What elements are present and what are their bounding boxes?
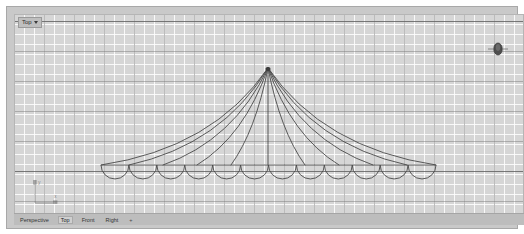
tent-ribs bbox=[101, 68, 436, 165]
tent-scallop-3 bbox=[185, 165, 213, 179]
tent-rib-0 bbox=[101, 68, 268, 165]
viewport-tab-bar[interactable]: PerspectiveTopFrontRight+ bbox=[14, 213, 524, 225]
tent-wireframe-geometry bbox=[15, 15, 524, 220]
tent-scallop-9 bbox=[352, 165, 380, 179]
tent-rib-10 bbox=[268, 68, 436, 165]
tent-scallops bbox=[101, 165, 436, 179]
tent-scallop-0 bbox=[101, 165, 129, 179]
viewport-tab-right[interactable]: Right bbox=[103, 216, 120, 224]
viewport-title[interactable]: Top bbox=[18, 17, 42, 28]
viewport-title-label: Top bbox=[22, 19, 32, 26]
tent-rib-2 bbox=[163, 68, 268, 165]
tent-scallop-6 bbox=[269, 165, 297, 179]
tent-scallop-11 bbox=[408, 165, 436, 179]
app-frame: Top y bbox=[6, 6, 518, 229]
application-window: Top y bbox=[0, 0, 524, 234]
tent-scallop-5 bbox=[241, 165, 269, 179]
viewport-top[interactable]: Top y bbox=[14, 14, 524, 220]
view-navigator-icon[interactable] bbox=[485, 37, 511, 67]
tent-apex-marker bbox=[265, 67, 270, 71]
tent-scallop-10 bbox=[380, 165, 408, 179]
viewport-tab-front[interactable]: Front bbox=[80, 216, 97, 224]
tent-scallop-7 bbox=[296, 165, 324, 179]
tent-scallop-8 bbox=[324, 165, 352, 179]
viewport-tab-perspective[interactable]: Perspective bbox=[18, 216, 51, 224]
tent-apex-point bbox=[265, 67, 270, 71]
viewport-tab-top[interactable]: Top bbox=[58, 216, 73, 224]
tent-rib-9 bbox=[268, 68, 407, 165]
chevron-down-icon[interactable] bbox=[34, 21, 38, 24]
tent-scallop-1 bbox=[129, 165, 157, 179]
axis-label-y: y bbox=[38, 179, 41, 185]
tent-rib-8 bbox=[268, 68, 373, 165]
tent-scallop-4 bbox=[213, 165, 241, 179]
viewport-tab-add[interactable]: + bbox=[127, 216, 134, 224]
axis-label-x: x bbox=[54, 193, 57, 199]
tent-scallop-2 bbox=[157, 165, 185, 179]
tent-rib-1 bbox=[129, 68, 268, 165]
axis-gizmo: y x bbox=[29, 175, 71, 209]
